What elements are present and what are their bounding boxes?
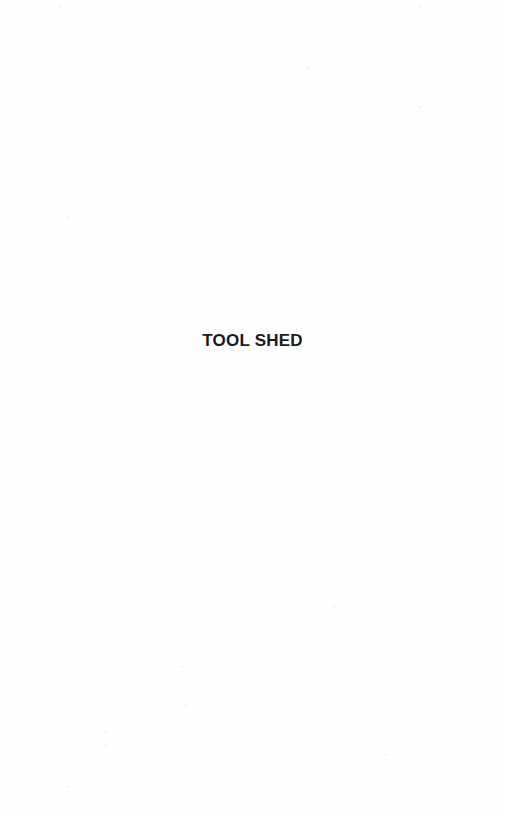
section-title: TOOL SHED (0, 331, 505, 351)
paper-speck (419, 106, 421, 108)
paper-speck (66, 786, 68, 788)
paper-speck (105, 745, 107, 747)
paper-speck (419, 5, 421, 7)
paper-speck (333, 606, 335, 608)
paper-speck (385, 754, 387, 756)
document-page: TOOL SHED (0, 0, 505, 818)
paper-speck (59, 5, 61, 7)
paper-speck (185, 705, 187, 707)
paper-speck (66, 216, 68, 218)
paper-speck (307, 67, 309, 69)
paper-speck (181, 666, 183, 668)
paper-speck (105, 731, 107, 733)
